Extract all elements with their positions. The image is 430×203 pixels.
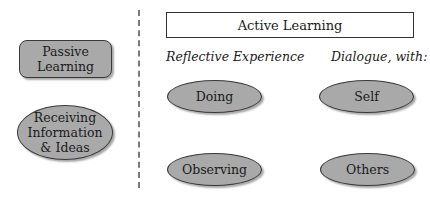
doing-node: Doing xyxy=(167,80,262,113)
divider-dashed-line xyxy=(138,10,140,188)
learning-diagram: Passive Learning Receiving Information &… xyxy=(0,0,430,203)
receiving-information-node: Receiving Information & Ideas xyxy=(17,105,113,160)
passive-learning-node: Passive Learning xyxy=(19,40,112,78)
dialogue-with-heading: Dialogue, with: xyxy=(331,49,427,64)
active-learning-header: Active Learning xyxy=(166,12,414,38)
observing-node: Observing xyxy=(167,153,262,186)
self-node: Self xyxy=(319,80,414,113)
reflective-experience-heading: Reflective Experience xyxy=(166,49,304,64)
others-node: Others xyxy=(320,153,415,186)
